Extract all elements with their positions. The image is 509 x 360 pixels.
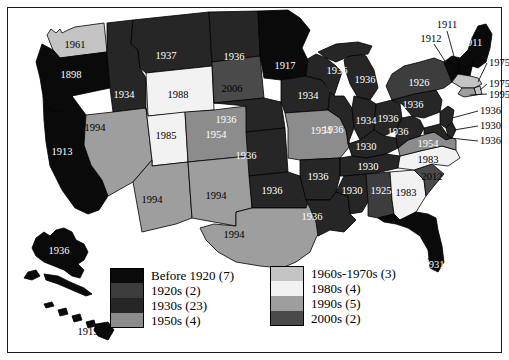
label-VA: 1954 [418, 138, 440, 149]
legend-label-1990s: 1990s (5) [311, 296, 360, 311]
label-NM: 1994 [206, 190, 228, 201]
legend-item[interactable]: 1920s (2) [110, 283, 234, 298]
state-HI-3[interactable] [72, 314, 82, 322]
label-PA: 1936 [403, 99, 424, 110]
legend-label-1950s: 1950s (4) [151, 313, 200, 328]
legend-right: 1960s-1970s (3) 1980s (4) 1990s (5) 2000… [270, 266, 396, 326]
legend-swatch-1920s [110, 283, 144, 298]
label-CO: 1954 [206, 129, 228, 140]
state-AK-tail[interactable] [44, 274, 92, 296]
label-WI: 1936 [327, 65, 348, 76]
label-OR: 1898 [61, 69, 82, 80]
legend-swatch-1960s-1970s [270, 266, 304, 281]
legend-item[interactable]: 1980s (4) [270, 281, 396, 296]
legend-label-1930s: 1930s (23) [151, 298, 207, 313]
state-CT[interactable] [458, 88, 476, 97]
state-HI-2[interactable] [58, 308, 68, 316]
callout-NJ: 1936 [480, 105, 501, 116]
callout-CT: 1995 [489, 89, 509, 100]
label-AZ: 1994 [142, 194, 164, 205]
label-WY: 1988 [168, 89, 189, 100]
label-TX: 1994 [224, 229, 246, 240]
callout-VT: 1911 [437, 19, 458, 30]
label-IL: 1936 [323, 124, 344, 135]
label-FL: 1931 [424, 259, 445, 270]
label-MT: 1937 [156, 50, 177, 61]
state-AK-aleutians[interactable] [24, 270, 40, 280]
callout-ME: 1912 [421, 33, 442, 44]
label-KS: 1936 [236, 150, 257, 161]
legend-item[interactable]: Before 1920 (7) [110, 268, 234, 283]
state-HI-1[interactable] [44, 302, 54, 308]
legend-label-1960s-1970s: 1960s-1970s (3) [311, 266, 396, 281]
label-SD: 2006 [222, 83, 243, 94]
legend-swatch-before-1920 [110, 268, 144, 283]
label-AR: 1936 [308, 171, 329, 182]
label-TN: 1930 [358, 161, 379, 172]
legend-label-1920s: 1920s (2) [151, 283, 200, 298]
state-SD[interactable] [212, 56, 264, 103]
state-MT[interactable] [131, 12, 212, 73]
state-MA[interactable] [452, 74, 482, 88]
label-MI: 1936 [355, 74, 376, 85]
label-NC: 1983 [418, 154, 439, 165]
us-map: 1961 1898 1913 1934 1937 1988 1994 1985 … [0, 0, 509, 360]
label-NV: 1994 [85, 122, 107, 133]
us-map-svg: 1961 1898 1913 1934 1937 1988 1994 1985 … [0, 0, 509, 360]
legend-label-2000s: 2000s (2) [311, 311, 360, 326]
legend-item[interactable]: 2000s (2) [270, 311, 396, 326]
legend-swatch-1930s [110, 298, 144, 313]
legend-swatch-1990s [270, 296, 304, 311]
label-OH: 1936 [378, 113, 399, 124]
label-GA: 1983 [396, 187, 417, 198]
callout-NH: 1911 [462, 37, 483, 48]
legend-swatch-1980s [270, 281, 304, 296]
label-SC: 2012 [422, 171, 443, 182]
label-ND: 1936 [224, 51, 245, 62]
label-LA: 1936 [302, 211, 323, 222]
label-OK: 1936 [262, 185, 283, 196]
callout-MD: 1936 [480, 135, 501, 146]
legend-swatch-1950s [110, 313, 144, 328]
map-figure: 1961 1898 1913 1934 1937 1988 1994 1985 … [0, 0, 509, 360]
callout-MA: 1975 [489, 57, 509, 68]
legend-item[interactable]: 1950s (4) [110, 313, 234, 328]
label-IN: 1934 [356, 115, 378, 126]
label-NE: 1936 [216, 114, 237, 125]
legend-item[interactable]: 1930s (23) [110, 298, 234, 313]
label-MN: 1917 [275, 60, 296, 71]
label-ID: 1934 [114, 89, 136, 100]
label-WA: 1961 [65, 39, 86, 50]
label-AK: 1936 [49, 245, 70, 256]
legend-label-before-1920: Before 1920 (7) [151, 268, 234, 283]
label-HI: 1915 [78, 326, 99, 337]
label-AL: 1925 [371, 185, 392, 196]
label-CA: 1913 [52, 146, 73, 157]
callout-DE: 1930 [480, 120, 501, 131]
label-KY: 1930 [356, 141, 377, 152]
label-WV: 1936 [388, 126, 409, 137]
label-NY: 1926 [409, 77, 430, 88]
legend-item[interactable]: 1960s-1970s (3) [270, 266, 396, 281]
legend-swatch-2000s [270, 311, 304, 326]
legend-label-1980s: 1980s (4) [311, 281, 360, 296]
label-UT: 1985 [156, 130, 177, 141]
label-MS: 1930 [342, 185, 363, 196]
legend-item[interactable]: 1990s (5) [270, 296, 396, 311]
callout-RI: 1975 [489, 78, 509, 89]
legend-left: Before 1920 (7) 1920s (2) 1930s (23) 195… [110, 268, 234, 328]
label-IA: 1934 [298, 90, 320, 101]
